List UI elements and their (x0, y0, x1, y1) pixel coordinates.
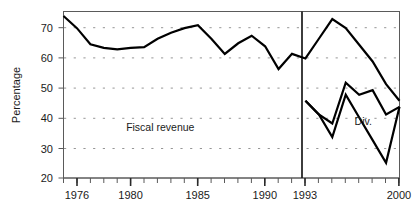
y-tick-label-50: 50 (41, 82, 53, 94)
x-tick-label-1990: 1990 (253, 189, 277, 201)
y-tick-label-60: 60 (41, 52, 53, 64)
x-tick-label-2000: 2000 (387, 189, 411, 201)
y-tick-label-20: 20 (41, 172, 53, 184)
chart-figure: 20 30 40 50 60 70 Percentage (0, 0, 418, 218)
y-tick-label-40: 40 (41, 112, 53, 124)
y-tick-label-30: 30 (41, 143, 53, 155)
x-tick-label-1985: 1985 (185, 189, 209, 201)
x-tick-label-1993: 1993 (293, 189, 317, 201)
annotation-fiscal-revenue: Fiscal revenue (126, 121, 194, 133)
annotation-div: Div. (355, 115, 372, 127)
y-axis-title: Percentage (10, 67, 22, 123)
line-chart: 20 30 40 50 60 70 Percentage (0, 0, 418, 218)
x-tick-label-1976: 1976 (65, 189, 89, 201)
y-tick-label-70: 70 (41, 22, 53, 34)
x-tick-label-1980: 1980 (118, 189, 142, 201)
